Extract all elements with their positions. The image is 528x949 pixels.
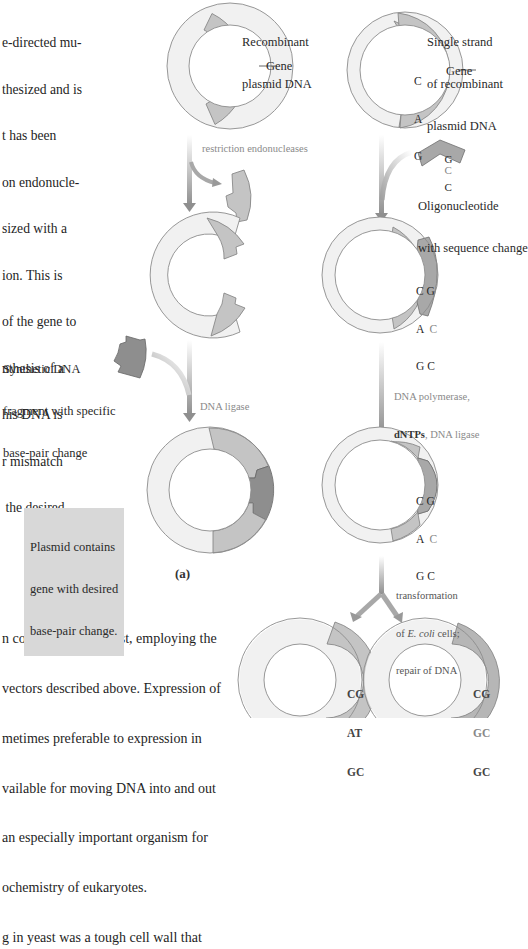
ecoli-text: E. coli	[407, 628, 434, 639]
base: G	[355, 688, 364, 700]
label-line: with sequence change	[418, 241, 528, 255]
base: A	[414, 113, 422, 126]
arrow-head	[212, 178, 222, 187]
transformation-step-label: transformation of E. coli cells; repair …	[396, 565, 460, 690]
label-line: transformation	[396, 590, 460, 603]
oligonucleotide-label: Oligonucleotide with sequence change	[418, 171, 528, 269]
base: C	[482, 727, 490, 739]
base-pair-row: C G	[416, 495, 437, 508]
label-line: Recombinant	[242, 35, 312, 49]
product-right-bases: CG GC GC	[473, 662, 490, 792]
base-pair-row: A C	[416, 533, 437, 546]
base: A	[416, 323, 424, 335]
polymerase-step-label: DNA polymerase, dNTPs, DNA ligase	[394, 366, 479, 454]
label-line: Plasmid contains	[30, 540, 118, 554]
base: G	[427, 285, 435, 297]
gene-bases-b1: C A G	[414, 50, 422, 175]
label-line: plasmid DNA	[427, 119, 503, 133]
base: G	[347, 766, 356, 778]
base: G	[414, 150, 422, 163]
base-pair-row: GC	[473, 727, 490, 740]
body-text-line: vailable for moving DNA into and out	[2, 781, 221, 798]
body-text-line: g in yeast was a tough cell wall that	[2, 930, 221, 947]
label-line: Single strand	[427, 35, 503, 49]
body-text-line: an especially important organism for	[2, 830, 221, 847]
base-pair-row: AT	[347, 727, 364, 740]
restriction-endonucleases-label: restriction endonucleases	[202, 143, 308, 156]
base: C	[429, 533, 437, 545]
body-text-line: metimes preferable to expression in	[2, 731, 221, 748]
panel-label-a: (a)	[175, 566, 190, 582]
base-pair-row: GC	[473, 766, 490, 779]
label-line: plasmid DNA	[242, 77, 312, 91]
dntps-text: dNTPs	[394, 429, 425, 440]
arrow-head	[183, 203, 196, 212]
base: C	[416, 495, 424, 507]
synthetic-fragment	[114, 336, 146, 378]
product-left-bases: CG AT GC	[347, 662, 364, 792]
arrow-head	[183, 413, 196, 422]
label-line: gene with desired	[30, 582, 118, 596]
plasmid-a3	[147, 427, 274, 553]
ligase-text: , DNA ligase	[425, 429, 480, 440]
gene-label-b: Gene	[446, 64, 472, 78]
arrow-branch	[191, 162, 215, 183]
arrow-shaft	[379, 135, 384, 215]
base-pair-row: C G	[416, 285, 437, 298]
base: C	[356, 766, 364, 778]
base: T	[354, 727, 362, 739]
base-pair-row: CG	[347, 688, 364, 701]
base: C	[429, 323, 437, 335]
arrow-branch	[152, 354, 189, 395]
arrow-shaft	[379, 342, 384, 434]
dna-ligase-label: DNA ligase	[200, 401, 249, 414]
gene-label-a: Gene	[266, 59, 292, 73]
result-callout: Plasmid contains gene with desired base-…	[24, 508, 124, 656]
base: G	[481, 688, 490, 700]
label-line: Oligonucleotide	[418, 199, 528, 213]
label-line: dNTPs, DNA ligase	[394, 429, 479, 442]
label-line: DNA polymerase,	[394, 391, 479, 404]
base-pair-row: A C	[416, 323, 437, 336]
label-line: of E. coli cells;	[396, 628, 460, 641]
body-text-line: ochemistry of eukaryotes.	[2, 880, 221, 897]
label-line: of recombinant	[427, 77, 503, 91]
text: cells;	[435, 628, 460, 639]
base: C	[414, 75, 422, 88]
base-pair-row: CG	[473, 688, 490, 701]
label-line: Synthetic DNA	[3, 362, 115, 376]
text: of	[396, 628, 407, 639]
plasmid-a2-cut	[150, 212, 245, 338]
base: C	[482, 766, 490, 778]
base: A	[416, 533, 424, 545]
arrow-branch	[382, 152, 412, 200]
base: G	[473, 727, 482, 739]
base-pair-row: GC	[347, 766, 364, 779]
label-line: repair of DNA	[396, 665, 460, 678]
label-line: base-pair change.	[30, 624, 118, 638]
label-line: base-pair change	[3, 446, 115, 460]
arrow-shaft	[187, 135, 192, 205]
synthetic-fragment-label: Synthetic DNA fragment with specific bas…	[3, 334, 115, 474]
recombinant-plasmid-label: Recombinant plasmid DNA	[242, 7, 312, 105]
base: C	[416, 285, 424, 297]
arrow-shaft	[187, 340, 192, 415]
label-line: fragment with specific	[3, 404, 115, 418]
base: G	[473, 766, 482, 778]
base: G	[427, 495, 435, 507]
